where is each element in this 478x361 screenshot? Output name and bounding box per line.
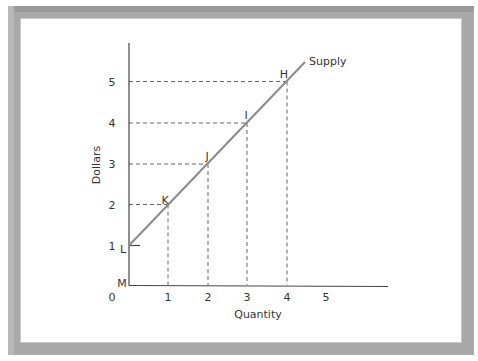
x-axis-title: Quantity	[234, 308, 282, 321]
supply-chart: 5 4 3 2 1 0 1 2 3 4 5 Quantity Dollars M…	[0, 0, 478, 361]
point-label-i: I	[244, 109, 247, 122]
y-tick-label-1: 1	[109, 240, 116, 253]
origin-zero-label: 0	[109, 291, 116, 304]
y-tick-label-3: 3	[109, 158, 116, 171]
y-tick-label-2: 2	[109, 199, 116, 212]
point-label-m: M	[117, 277, 127, 290]
point-label-h: H	[280, 68, 288, 81]
supply-line	[129, 62, 305, 246]
point-label-l: L	[120, 243, 127, 256]
reference-lines	[129, 82, 287, 286]
x-tick-label-2: 2	[205, 291, 212, 304]
x-tick-label-4: 4	[284, 291, 291, 304]
y-tick-label-5: 5	[109, 76, 116, 89]
point-label-k: K	[161, 194, 169, 207]
point-label-j: J	[204, 150, 208, 163]
supply-series-label: Supply	[309, 55, 347, 68]
x-tick-label-5: 5	[323, 291, 330, 304]
x-axis	[129, 286, 388, 287]
y-tick-label-4: 4	[109, 117, 116, 130]
y-axis-title: Dollars	[90, 146, 103, 185]
x-tick-label-1: 1	[165, 291, 172, 304]
x-tick-label-3: 3	[244, 291, 251, 304]
